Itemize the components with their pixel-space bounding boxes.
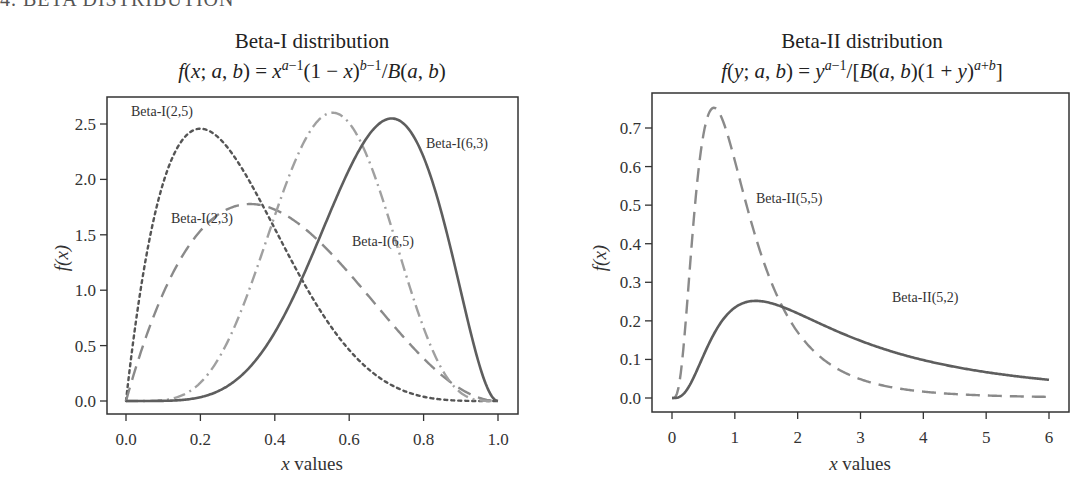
label-beta-i-2-3: Beta-I(2,3) xyxy=(171,211,233,227)
beta-ii-y-tick-label: 0.7 xyxy=(620,119,642,138)
beta-i-x-tick-label: 1.0 xyxy=(487,430,508,449)
beta-ii-x-tick-label: 4 xyxy=(919,428,928,447)
beta-ii-y-tick-label: 0.1 xyxy=(620,350,641,369)
beta-i-x-tick-label: 0.6 xyxy=(339,430,360,449)
beta-ii-y-tick-label: 0.0 xyxy=(620,389,641,408)
beta-ii-y-tick-label: 0.6 xyxy=(620,158,641,177)
beta-i-y-axis-label: f(x) xyxy=(51,245,73,271)
beta-ii-title: Beta-II distribution xyxy=(781,29,943,53)
beta-ii-x-tick-label: 2 xyxy=(793,428,802,447)
beta-ii-x-tick-label: 0 xyxy=(668,428,677,447)
beta-i-y-tick-label: 2.5 xyxy=(75,115,96,134)
beta-ii-x-tick-label: 1 xyxy=(731,428,740,447)
beta-ii-formula: f(y; a, b) = ya−1/[B(a, b)(1 + y)a+b] xyxy=(721,58,1003,83)
beta-ii-y-tick-label: 0.4 xyxy=(620,235,642,254)
beta-ii-curves xyxy=(672,108,1049,398)
curve-beta-i-2-5 xyxy=(126,129,498,401)
curve-beta-ii-5-2 xyxy=(672,301,1049,398)
curve-beta-i-2-3 xyxy=(126,204,498,401)
beta-ii-x-tick-label: 6 xyxy=(1045,428,1054,447)
beta-ii-y-tick-label: 0.5 xyxy=(620,196,641,215)
beta-i-curves xyxy=(126,113,498,401)
beta-distribution-figure: Beta-I distribution f(x; a, b) = xa−1(1 … xyxy=(0,0,1082,502)
beta-i-x-axis-label: x values xyxy=(280,453,343,474)
beta-ii-y-axis-label: f(x) xyxy=(589,245,611,271)
beta-ii-y-tick-label: 0.2 xyxy=(620,312,641,331)
label-beta-i-6-3: Beta-I(6,3) xyxy=(426,136,488,152)
beta-i-y-tick-label: 2.0 xyxy=(75,170,96,189)
label-beta-ii-5-2: Beta-II(5,2) xyxy=(892,290,959,306)
beta-ii-plot-frame xyxy=(652,93,1069,412)
beta-i-x-tick-label: 0.4 xyxy=(264,430,286,449)
beta-ii-axes: 01234560.00.10.20.30.40.50.60.7 xyxy=(620,119,1054,447)
beta-ii-y-tick-label: 0.3 xyxy=(620,273,641,292)
beta-i-panel: Beta-I distribution f(x; a, b) = xa−1(1 … xyxy=(51,29,518,474)
beta-i-y-tick-label: 0.5 xyxy=(75,337,96,356)
label-beta-ii-5-5: Beta-II(5,5) xyxy=(756,191,823,207)
beta-i-y-tick-label: 0.0 xyxy=(75,392,96,411)
beta-i-y-tick-label: 1.5 xyxy=(75,226,96,245)
beta-i-x-tick-label: 0.2 xyxy=(190,430,211,449)
curve-beta-i-6-3 xyxy=(126,118,498,401)
label-beta-i-6-5: Beta-I(6,5) xyxy=(352,234,414,250)
beta-i-formula: f(x; a, b) = xa−1(1 − x)b−1/B(a, b) xyxy=(178,58,446,83)
beta-ii-x-tick-label: 3 xyxy=(856,428,865,447)
beta-ii-x-axis-label: x values xyxy=(828,453,891,474)
beta-i-x-tick-label: 0.8 xyxy=(413,430,434,449)
beta-ii-x-tick-label: 5 xyxy=(982,428,991,447)
curve-beta-ii-5-5 xyxy=(672,108,1049,398)
beta-i-y-tick-label: 1.0 xyxy=(75,281,96,300)
beta-i-x-tick-label: 0.0 xyxy=(115,430,136,449)
beta-i-title: Beta-I distribution xyxy=(235,29,390,53)
label-beta-i-2-5: Beta-I(2,5) xyxy=(131,104,193,120)
beta-ii-panel: Beta-II distribution f(y; a, b) = ya−1/[… xyxy=(589,29,1069,474)
